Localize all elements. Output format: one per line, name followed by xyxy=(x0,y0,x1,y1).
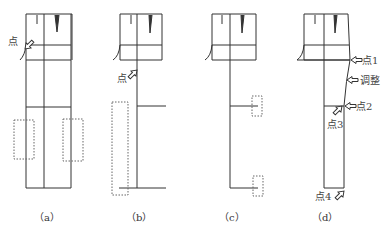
point-2-arrow-icon xyxy=(345,103,356,110)
label-point-1: 点1 xyxy=(362,56,378,66)
label-adjust: 调整 xyxy=(360,76,380,86)
point-1-arrow-icon xyxy=(351,57,362,64)
caption-a: （a） xyxy=(34,213,60,223)
panel-c xyxy=(205,14,263,196)
label-point-a: 点 xyxy=(8,37,18,47)
caption-c: （c） xyxy=(219,213,245,223)
panel-a xyxy=(14,14,83,188)
label-point-b: 点 xyxy=(117,74,127,84)
point-3-arrow-icon xyxy=(332,104,345,117)
panel-b xyxy=(112,14,166,195)
point-arrow-icon xyxy=(127,68,140,81)
label-point-4: 点4 xyxy=(315,192,331,202)
label-point-3: 点3 xyxy=(327,120,343,130)
caption-b: （b） xyxy=(126,213,152,223)
point-4-arrow-icon xyxy=(334,189,347,202)
caption-d: （d） xyxy=(312,213,338,223)
adjust-arrow-icon xyxy=(347,77,358,84)
label-point-2: 点2 xyxy=(356,102,372,112)
panel-d xyxy=(297,14,350,188)
